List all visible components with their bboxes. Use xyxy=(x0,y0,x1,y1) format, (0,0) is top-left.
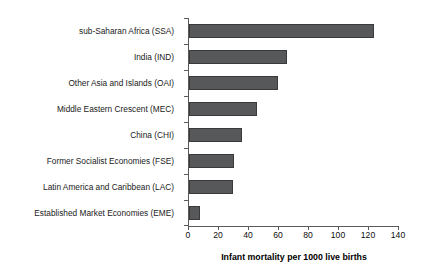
y-axis-category-labels: sub-Saharan Africa (SSA) India (IND) Oth… xyxy=(0,18,180,226)
y-axis-tick-mark xyxy=(184,70,188,71)
bar-band xyxy=(189,18,398,44)
bar-oai xyxy=(189,76,278,90)
y-axis-tick-label: China (CHI) xyxy=(0,122,180,148)
x-axis-tick-label: 80 xyxy=(293,230,323,240)
y-axis-tick-label: Established Market Economies (EME) xyxy=(0,200,180,226)
bar-chi xyxy=(189,128,242,142)
bar-band xyxy=(189,174,398,200)
y-axis-tick-mark xyxy=(184,122,188,123)
y-axis-tick-label: Middle Eastern Crescent (MEC) xyxy=(0,96,180,122)
bar-eme xyxy=(189,206,200,220)
y-axis-tick-mark xyxy=(184,148,188,149)
y-axis-tick-mark xyxy=(184,18,188,19)
y-axis-tick-mark xyxy=(184,44,188,45)
bar-ind xyxy=(189,50,287,64)
x-axis-tick-label: 120 xyxy=(353,230,383,240)
plot-area xyxy=(188,18,398,226)
x-axis-title: Infant mortality per 1000 live births xyxy=(188,252,400,262)
y-axis-tick-mark xyxy=(184,96,188,97)
bar-band xyxy=(189,96,398,122)
y-axis-tick-label: Latin America and Caribbean (LAC) xyxy=(0,174,180,200)
bar-ssa xyxy=(189,24,374,38)
x-axis-tick-label: 20 xyxy=(203,230,233,240)
bar-band xyxy=(189,70,398,96)
bar-lac xyxy=(189,180,233,194)
bar-band xyxy=(189,148,398,174)
bar-band xyxy=(189,200,398,226)
y-axis-tick-mark xyxy=(184,200,188,201)
x-axis-tick-label: 140 xyxy=(383,230,413,240)
y-axis-tick-mark xyxy=(184,174,188,175)
bar-band xyxy=(189,122,398,148)
bar-fse xyxy=(189,154,234,168)
bar-chart: sub-Saharan Africa (SSA) India (IND) Oth… xyxy=(0,0,430,277)
bar-series xyxy=(189,18,398,226)
bar-mec xyxy=(189,102,257,116)
y-axis-tick-label: Other Asia and Islands (OAI) xyxy=(0,70,180,96)
x-axis-tick-label: 100 xyxy=(323,230,353,240)
y-axis-tick-label: Former Socialist Economies (FSE) xyxy=(0,148,180,174)
x-axis-tick-label: 60 xyxy=(263,230,293,240)
x-axis-tick-label: 0 xyxy=(173,230,203,240)
x-axis-tick-label: 40 xyxy=(233,230,263,240)
y-axis-tick-label: sub-Saharan Africa (SSA) xyxy=(0,18,180,44)
bar-band xyxy=(189,44,398,70)
y-axis-tick-label: India (IND) xyxy=(0,44,180,70)
